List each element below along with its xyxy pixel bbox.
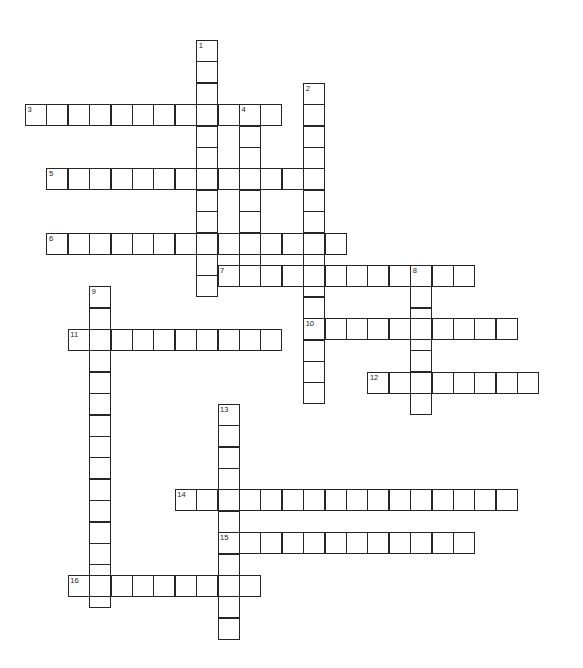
crossword-cell[interactable]	[325, 233, 347, 255]
crossword-cell[interactable]	[346, 489, 368, 511]
crossword-cell[interactable]	[132, 104, 154, 126]
crossword-cell[interactable]	[196, 126, 218, 148]
crossword-cell[interactable]	[303, 297, 325, 319]
crossword-cell-start-3-across[interactable]: 3	[25, 104, 47, 126]
crossword-cell-start-15-across[interactable]: 15	[218, 532, 240, 554]
crossword-cell[interactable]	[153, 329, 175, 351]
crossword-cell[interactable]	[239, 233, 261, 255]
crossword-cell[interactable]	[325, 532, 347, 554]
crossword-cell[interactable]	[453, 489, 475, 511]
crossword-cell[interactable]	[410, 393, 432, 415]
crossword-cell[interactable]	[325, 265, 347, 287]
crossword-cell[interactable]	[89, 457, 111, 479]
crossword-cell[interactable]	[89, 168, 111, 190]
crossword-cell[interactable]	[453, 372, 475, 394]
crossword-cell[interactable]	[111, 575, 133, 597]
crossword-cell[interactable]	[218, 554, 240, 576]
crossword-cell-start-6-across[interactable]: 6	[46, 233, 68, 255]
crossword-cell[interactable]	[432, 372, 454, 394]
crossword-cell[interactable]	[474, 372, 496, 394]
crossword-cell[interactable]	[196, 61, 218, 83]
crossword-cell[interactable]	[325, 318, 347, 340]
crossword-cell-start-9-down[interactable]: 9	[89, 286, 111, 308]
crossword-cell[interactable]	[303, 168, 325, 190]
crossword-cell[interactable]	[68, 104, 90, 126]
crossword-cell[interactable]	[89, 393, 111, 415]
crossword-cell[interactable]	[303, 489, 325, 511]
crossword-cell[interactable]	[196, 190, 218, 212]
crossword-cell[interactable]	[474, 489, 496, 511]
crossword-cell[interactable]	[218, 596, 240, 618]
crossword-cell[interactable]	[303, 340, 325, 362]
crossword-cell[interactable]	[453, 265, 475, 287]
crossword-cell[interactable]	[89, 350, 111, 372]
crossword-cell[interactable]	[303, 265, 325, 287]
crossword-cell[interactable]	[196, 275, 218, 297]
crossword-cell[interactable]	[89, 372, 111, 394]
crossword-cell[interactable]	[517, 372, 539, 394]
crossword-cell[interactable]	[196, 211, 218, 233]
crossword-cell-start-2-down[interactable]: 2	[303, 83, 325, 105]
crossword-cell[interactable]	[389, 372, 411, 394]
crossword-cell[interactable]	[432, 532, 454, 554]
crossword-cell[interactable]	[303, 190, 325, 212]
crossword-cell[interactable]	[410, 286, 432, 308]
crossword-cell[interactable]	[218, 575, 240, 597]
crossword-cell[interactable]	[196, 575, 218, 597]
crossword-cell-start-8-down[interactable]: 8	[410, 265, 432, 287]
crossword-cell-start-13-down[interactable]: 13	[218, 404, 240, 426]
crossword-cell[interactable]	[303, 532, 325, 554]
crossword-cell[interactable]	[303, 147, 325, 169]
crossword-cell[interactable]	[153, 168, 175, 190]
crossword-cell[interactable]	[496, 372, 518, 394]
crossword-cell[interactable]	[325, 489, 347, 511]
crossword-cell[interactable]	[218, 329, 240, 351]
crossword-cell[interactable]	[389, 318, 411, 340]
crossword-cell[interactable]	[196, 254, 218, 276]
crossword-cell[interactable]	[432, 318, 454, 340]
crossword-cell-start-10-across[interactable]: 10	[303, 318, 325, 340]
crossword-cell[interactable]	[474, 318, 496, 340]
crossword-cell[interactable]	[89, 415, 111, 437]
crossword-cell[interactable]	[153, 575, 175, 597]
crossword-cell[interactable]	[132, 233, 154, 255]
crossword-cell-start-1-down[interactable]: 1	[196, 40, 218, 62]
crossword-cell[interactable]	[175, 168, 197, 190]
crossword-cell[interactable]	[303, 126, 325, 148]
crossword-cell[interactable]	[89, 500, 111, 522]
crossword-cell[interactable]	[260, 233, 282, 255]
crossword-cell[interactable]	[196, 233, 218, 255]
crossword-cell-start-14-across[interactable]: 14	[175, 489, 197, 511]
crossword-cell[interactable]	[68, 168, 90, 190]
crossword-cell[interactable]	[239, 190, 261, 212]
crossword-cell[interactable]	[89, 522, 111, 544]
crossword-cell[interactable]	[239, 265, 261, 287]
crossword-cell-start-11-across[interactable]: 11	[68, 329, 90, 351]
crossword-cell[interactable]	[389, 489, 411, 511]
crossword-cell[interactable]	[111, 104, 133, 126]
crossword-cell[interactable]	[218, 489, 240, 511]
crossword-cell[interactable]	[218, 447, 240, 469]
crossword-cell[interactable]	[282, 489, 304, 511]
crossword-cell[interactable]	[239, 575, 261, 597]
crossword-cell[interactable]	[132, 575, 154, 597]
crossword-cell[interactable]	[303, 233, 325, 255]
crossword-cell[interactable]	[282, 233, 304, 255]
crossword-cell[interactable]	[175, 233, 197, 255]
crossword-cell[interactable]	[111, 329, 133, 351]
crossword-cell[interactable]	[218, 511, 240, 533]
crossword-cell[interactable]	[346, 265, 368, 287]
crossword-cell[interactable]	[218, 618, 240, 640]
crossword-cell[interactable]	[132, 168, 154, 190]
crossword-cell[interactable]	[153, 233, 175, 255]
crossword-cell[interactable]	[111, 168, 133, 190]
crossword-cell[interactable]	[111, 233, 133, 255]
crossword-cell[interactable]	[496, 489, 518, 511]
crossword-cell[interactable]	[239, 532, 261, 554]
crossword-cell[interactable]	[175, 104, 197, 126]
crossword-cell[interactable]	[239, 126, 261, 148]
crossword-cell[interactable]	[260, 532, 282, 554]
crossword-cell[interactable]	[389, 532, 411, 554]
crossword-cell[interactable]	[367, 265, 389, 287]
crossword-cell[interactable]	[389, 265, 411, 287]
